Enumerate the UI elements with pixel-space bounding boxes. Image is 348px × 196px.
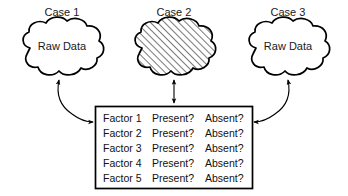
- factor-label: Factor 5: [103, 172, 142, 184]
- table-row: Factor 2 Present? Absent?: [103, 127, 244, 139]
- factor-label: Factor 4: [103, 157, 142, 169]
- present-label: Present?: [152, 172, 194, 184]
- case1-title: Case 1: [45, 6, 80, 18]
- absent-label: Absent?: [205, 142, 244, 154]
- present-label: Present?: [152, 112, 194, 124]
- case1-connector-arrow: [58, 80, 93, 122]
- present-label: Present?: [152, 127, 194, 139]
- case1-group: Case 1 Raw Data: [23, 6, 104, 75]
- absent-label: Absent?: [205, 157, 244, 169]
- case2-group: Case 2: [135, 6, 216, 75]
- table-row: Factor 1 Present? Absent?: [103, 112, 244, 124]
- present-label: Present?: [152, 157, 194, 169]
- factor-label: Factor 2: [103, 127, 142, 139]
- case3-group: Case 3 Raw Data: [249, 6, 330, 75]
- table-row: Factor 4 Present? Absent?: [103, 157, 244, 169]
- present-label: Present?: [152, 142, 194, 154]
- absent-label: Absent?: [205, 112, 244, 124]
- case3-title: Case 3: [271, 6, 306, 18]
- absent-label: Absent?: [205, 172, 244, 184]
- factor-label: Factor 3: [103, 142, 142, 154]
- absent-label: Absent?: [205, 127, 244, 139]
- case1-cloud-label: Raw Data: [38, 40, 87, 52]
- table-row: Factor 3 Present? Absent?: [103, 142, 244, 154]
- case3-connector-arrow: [254, 80, 289, 122]
- factor-table: Factor 1 Present? Absent? Factor 2 Prese…: [96, 107, 253, 189]
- factor-label: Factor 1: [103, 112, 142, 124]
- case3-cloud-label: Raw Data: [264, 40, 313, 52]
- table-row: Factor 5 Present? Absent?: [103, 172, 244, 184]
- case2-title: Case 2: [157, 6, 192, 18]
- case2-cloud-shape: [135, 17, 216, 75]
- diagram-svg: Case 1 Raw Data Case 2 Case 3 Raw Data F…: [0, 0, 348, 196]
- diagram-canvas: Case 1 Raw Data Case 2 Case 3 Raw Data F…: [0, 0, 348, 196]
